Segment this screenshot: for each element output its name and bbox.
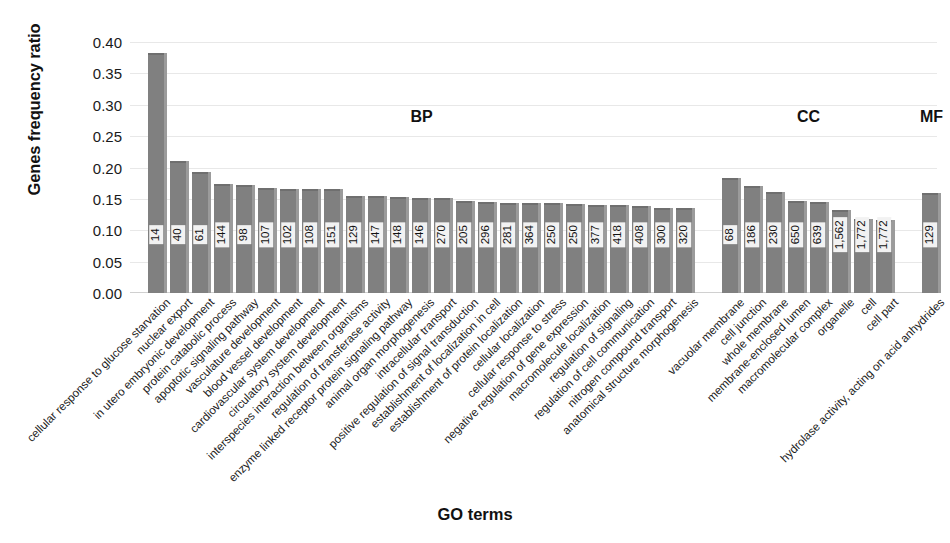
x-axis-title: GO terms xyxy=(0,505,950,524)
bar[interactable]: 102 xyxy=(280,189,299,293)
bar[interactable]: 250 xyxy=(544,203,563,293)
y-tick-0.25: 0.25 xyxy=(93,128,122,145)
bar-value-label: 205 xyxy=(457,222,471,247)
gridline xyxy=(130,105,937,106)
bar[interactable]: 144 xyxy=(214,184,233,293)
bar-value-label: 650 xyxy=(789,222,803,247)
bar-value-label: 98 xyxy=(237,225,251,244)
bar[interactable]: 650 xyxy=(788,201,807,293)
bar[interactable]: 281 xyxy=(500,203,519,293)
bar-top-edge xyxy=(632,206,648,208)
bar-value-label: 14 xyxy=(149,225,163,244)
bar-top-edge xyxy=(236,185,252,187)
bar-value-label: 108 xyxy=(303,222,317,247)
bar-top-edge xyxy=(722,178,738,180)
bar-value-label: 300 xyxy=(655,222,669,247)
bar[interactable]: 14 xyxy=(148,53,167,293)
bar-value-label: 186 xyxy=(745,222,759,247)
bar-value-label: 364 xyxy=(523,222,537,247)
bar-value-label: 270 xyxy=(435,222,449,247)
bar-value-label: 1,562 xyxy=(833,217,847,252)
bar[interactable]: 377 xyxy=(588,205,607,293)
bar[interactable]: 151 xyxy=(324,189,343,293)
bar[interactable]: 320 xyxy=(676,208,695,293)
bar-top-edge xyxy=(258,188,274,190)
bar[interactable]: 98 xyxy=(236,185,255,293)
bar-value-label: 129 xyxy=(923,222,937,247)
bar-value-label: 144 xyxy=(215,222,229,247)
bar[interactable]: 230 xyxy=(766,192,785,293)
bar[interactable]: 107 xyxy=(258,188,277,293)
y-tick-0.30: 0.30 xyxy=(93,96,122,113)
bar[interactable]: 40 xyxy=(170,161,189,293)
bar-value-label: 250 xyxy=(567,222,581,247)
bar[interactable]: 1,772 xyxy=(854,219,873,293)
bar[interactable]: 364 xyxy=(522,203,541,293)
bar-value-label: 107 xyxy=(259,222,273,247)
bar-top-edge xyxy=(368,196,384,198)
bar[interactable]: 147 xyxy=(368,196,387,293)
bar-value-label: 230 xyxy=(767,222,781,247)
bar[interactable]: 68 xyxy=(722,178,741,293)
bar-value-label: 147 xyxy=(369,222,383,247)
y-tick-0.00: 0.00 xyxy=(93,285,122,302)
bar[interactable]: 639 xyxy=(810,202,829,293)
bar[interactable]: 129 xyxy=(346,196,365,293)
y-tick-0.10: 0.10 xyxy=(93,222,122,239)
bar-top-edge xyxy=(324,189,340,191)
bar-top-edge xyxy=(302,189,318,191)
bar-top-edge xyxy=(566,204,582,206)
bar-top-edge xyxy=(192,172,208,174)
bar-top-edge xyxy=(456,201,472,203)
bar[interactable]: 146 xyxy=(412,198,431,293)
bar[interactable]: 186 xyxy=(744,186,763,293)
bar-value-label: 151 xyxy=(325,222,339,247)
y-tick-0.35: 0.35 xyxy=(93,65,122,82)
bar[interactable]: 270 xyxy=(434,198,453,293)
bar-top-edge xyxy=(478,202,494,204)
section-header-bp: BP xyxy=(410,108,432,126)
bar-top-edge xyxy=(832,210,848,212)
bar[interactable]: 408 xyxy=(632,206,651,293)
bar-top-edge xyxy=(810,202,826,204)
bar-value-label: 281 xyxy=(501,222,515,247)
bar-value-label: 68 xyxy=(723,225,737,244)
bar-value-label: 40 xyxy=(171,225,185,244)
bar-top-edge xyxy=(544,203,560,205)
y-axis-title: Genes frequency ratio xyxy=(25,0,44,240)
bar-top-edge xyxy=(922,193,938,195)
bar-top-edge xyxy=(148,53,164,55)
bar-top-edge xyxy=(412,198,428,200)
bar-value-label: 408 xyxy=(633,222,647,247)
bar[interactable]: 129 xyxy=(922,193,941,293)
bar-top-edge xyxy=(610,205,626,207)
y-tick-0.05: 0.05 xyxy=(93,253,122,270)
y-tick-0.20: 0.20 xyxy=(93,159,122,176)
bar-top-edge xyxy=(788,201,804,203)
bar-top-edge xyxy=(280,189,296,191)
bar[interactable]: 250 xyxy=(566,204,585,293)
bar-value-label: 102 xyxy=(281,222,295,247)
gridline xyxy=(130,136,937,137)
y-tick-0.40: 0.40 xyxy=(93,34,122,51)
bar-top-edge xyxy=(588,205,604,207)
bar[interactable]: 418 xyxy=(610,205,629,293)
bar-value-label: 1,772 xyxy=(877,217,891,252)
gridline xyxy=(130,42,937,43)
section-header-cc: CC xyxy=(797,108,820,126)
bar[interactable]: 148 xyxy=(390,197,409,293)
bar-top-edge xyxy=(676,208,692,210)
bar[interactable]: 1,562 xyxy=(832,210,851,293)
bar-value-label: 418 xyxy=(611,222,625,247)
bar[interactable]: 300 xyxy=(654,208,673,293)
bar-top-edge xyxy=(766,192,782,194)
bar[interactable]: 61 xyxy=(192,172,211,293)
bar-top-edge xyxy=(744,186,760,188)
bar-value-label: 377 xyxy=(589,222,603,247)
bar-top-edge xyxy=(434,198,450,200)
plot-area: 1440611449810710210815112914714814627020… xyxy=(130,42,937,293)
bar[interactable]: 296 xyxy=(478,202,497,293)
bar[interactable]: 1,772 xyxy=(876,220,895,293)
bar[interactable]: 108 xyxy=(302,189,321,293)
bar[interactable]: 205 xyxy=(456,201,475,293)
